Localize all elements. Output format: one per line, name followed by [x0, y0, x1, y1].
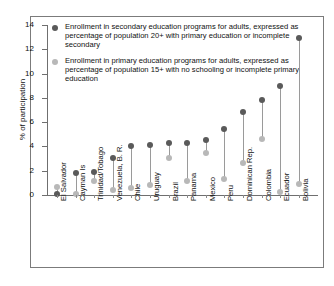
data-point-primary[interactable] — [203, 150, 209, 156]
x-axis-label: Chile — [134, 184, 142, 201]
x-axis-label: Mexico — [209, 177, 217, 201]
data-point-primary[interactable] — [221, 176, 227, 182]
x-tick-mark — [57, 195, 58, 198]
x-tick-mark — [262, 195, 263, 198]
stem-line — [299, 38, 300, 184]
data-point-secondary[interactable] — [240, 109, 246, 115]
data-point-secondary[interactable] — [221, 126, 227, 132]
data-point-secondary[interactable] — [184, 140, 190, 146]
data-point-primary[interactable] — [166, 155, 172, 161]
x-axis-label: El Salvador — [60, 162, 68, 201]
stem-line — [131, 146, 132, 189]
data-points-layer — [0, 0, 334, 286]
data-point-secondary[interactable] — [259, 97, 265, 103]
x-axis-label: Uruguay — [153, 172, 161, 201]
data-point-secondary[interactable] — [296, 35, 302, 41]
x-tick-mark — [299, 195, 300, 198]
x-axis-label: Dominican Rep. — [246, 147, 254, 201]
x-axis-label: Venezuela, B. R. — [116, 144, 124, 201]
x-axis-label: Ecuador — [283, 173, 291, 201]
x-axis-label: Colombia — [265, 169, 273, 201]
stem-line — [243, 112, 244, 164]
x-tick-mark — [150, 195, 151, 198]
data-point-secondary[interactable] — [128, 143, 134, 149]
data-point-primary[interactable] — [259, 136, 265, 142]
stem-line — [113, 158, 114, 190]
x-axis-label: Bolivia — [302, 179, 310, 201]
x-axis-label: Brazil — [172, 182, 180, 201]
x-tick-mark — [206, 195, 207, 198]
stem-line — [150, 145, 151, 184]
x-axis-label: Trinidad/Tobago — [97, 147, 105, 201]
chart-root: 02468101214 % of participation Enrollmen… — [0, 0, 334, 286]
x-tick-mark — [243, 195, 244, 198]
data-point-secondary[interactable] — [147, 142, 153, 148]
x-axis-label: Cayman Is — [79, 165, 87, 201]
data-point-secondary[interactable] — [203, 137, 209, 143]
data-point-secondary[interactable] — [277, 83, 283, 89]
stem-line — [224, 129, 225, 178]
x-tick-mark — [113, 195, 114, 198]
data-point-secondary[interactable] — [166, 140, 172, 146]
x-tick-mark — [169, 195, 170, 198]
stem-line — [262, 100, 263, 139]
x-axis-label: Peru — [227, 185, 235, 201]
x-axis-label: Panama — [190, 173, 198, 201]
x-tick-mark — [76, 195, 77, 198]
